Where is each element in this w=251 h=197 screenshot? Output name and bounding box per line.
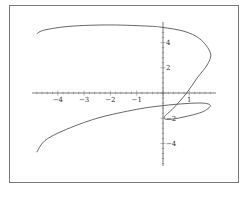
y-tick-label: 4 (166, 39, 171, 47)
x-tick-label: −4 (53, 96, 64, 104)
x-tick-label: −1 (132, 96, 142, 104)
x-tick-label: 1 (187, 96, 191, 104)
x-tick-label: −3 (79, 96, 89, 104)
x-tick-label: −2 (105, 96, 115, 104)
y-tick-label: 2 (166, 64, 170, 72)
y-tick-label: −4 (166, 140, 177, 148)
plot-canvas: −4−3−2−1142−2−4 (0, 0, 251, 197)
data-curve (37, 25, 211, 152)
